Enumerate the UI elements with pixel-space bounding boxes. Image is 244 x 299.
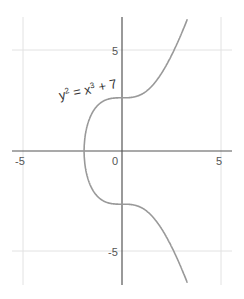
y-tick-neg5: -5 (108, 246, 118, 258)
x-tick-5: 5 (216, 155, 222, 167)
x-tick-0: 0 (112, 155, 118, 167)
y-tick-5: 5 (112, 45, 118, 57)
elliptic-curve-plot: -5 0 5 5 -5 y2 = x3 + 7 (0, 0, 244, 299)
x-tick-neg5: -5 (15, 155, 25, 167)
axes (12, 17, 232, 285)
